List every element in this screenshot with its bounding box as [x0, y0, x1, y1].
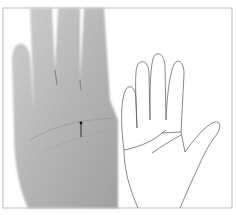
figure — [0, 0, 236, 215]
hand-illustration — [0, 0, 236, 215]
